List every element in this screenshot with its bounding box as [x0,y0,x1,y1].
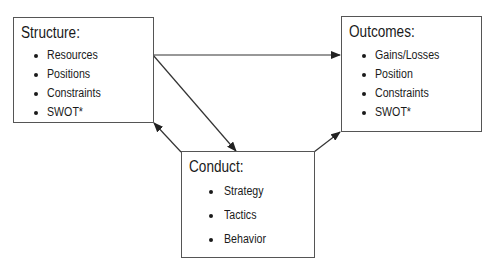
bullet-icon [362,73,366,77]
arrow-conduct-to-structure [154,123,181,152]
structure-item: Positions [47,67,90,81]
bullet-icon [34,54,38,58]
bullet-icon [209,238,213,242]
outcomes-item: Position [375,67,413,81]
arrow-conduct-to-outcomes [314,132,340,152]
outcomes-box: Outcomes: Gains/Losses Position Constrai… [341,16,482,132]
bullet-icon [34,111,38,115]
bullet-icon [34,73,38,77]
bullet-icon [362,92,366,96]
conduct-item: Behavior [224,232,266,246]
outcomes-item: Constraints [375,86,429,100]
conduct-box: Conduct: Strategy Tactics Behavior [181,151,315,258]
bullet-icon [362,54,366,58]
outcomes-item: Gains/Losses [375,48,439,62]
bullet-icon [34,92,38,96]
bullet-icon [209,214,213,218]
structure-title: Structure: [21,24,80,42]
bullet-icon [209,190,213,194]
conduct-title: Conduct: [189,158,243,176]
structure-item: Resources [47,48,98,62]
structure-item: Constraints [47,86,101,100]
outcomes-item: SWOT* [375,105,411,119]
conduct-item: Tactics [224,208,256,222]
arrow-structure-to-conduct [153,55,236,151]
structure-item: SWOT* [47,105,83,119]
bullet-icon [362,111,366,115]
outcomes-title: Outcomes: [349,23,415,41]
conduct-item: Strategy [224,184,264,198]
structure-box: Structure: Resources Positions Constrain… [13,17,154,123]
